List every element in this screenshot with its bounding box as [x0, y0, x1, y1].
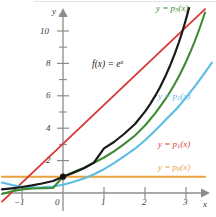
curve-label-p0-tail: (x) — [180, 162, 190, 172]
curve-label-p2: y = p2(x) — [158, 91, 190, 101]
y-axis-label: y — [52, 6, 56, 16]
curve-label-p0: y = p0(x) — [158, 162, 190, 172]
figure-canvas: −1 0 1 2 3 2 4 6 8 10 x y y = p3(x) y = … — [0, 0, 216, 217]
point-0-1 — [60, 174, 66, 180]
curve-label-p3-tail: (x) — [178, 3, 188, 13]
y-tick-label-8: 8 — [46, 58, 51, 68]
curve-label-p3: y = p3(x) — [156, 3, 188, 13]
x-tick-label-3: 3 — [183, 197, 188, 207]
curve-label-p1-lead: y = p — [158, 139, 177, 149]
curve-label-p3-lead: y = p — [156, 3, 175, 13]
curve-label-p1: y = p1(x) — [158, 139, 190, 149]
curve-label-p2-lead: y = p — [158, 91, 177, 101]
y-tick-label-10: 10 — [40, 26, 49, 36]
plot-svg — [0, 0, 216, 217]
y-axis-arrowhead — [59, 8, 68, 17]
x-tick-label-2: 2 — [142, 197, 147, 207]
x-axis-arrowhead — [201, 189, 210, 198]
curve-label-p0-lead: y = p — [158, 162, 177, 172]
y-tick-label-2: 2 — [46, 155, 51, 165]
y-tick-label-4: 4 — [46, 123, 51, 133]
curve-p1 — [2, 9, 205, 202]
x-tick-label-0: 0 — [55, 197, 60, 207]
curve-label-p2-tail: (x) — [180, 91, 190, 101]
curve-label-fx-exponent: x — [121, 58, 124, 65]
x-tick-label-1: 1 — [101, 197, 106, 207]
y-tick-label-6: 6 — [46, 90, 51, 100]
x-tick-label-neg1: −1 — [14, 197, 25, 207]
curve-label-fx: f(x) = ex — [92, 58, 123, 69]
x-axis-label: x — [203, 199, 207, 209]
curve-label-fx-main: f(x) = e — [92, 59, 121, 69]
curve-label-p1-tail: (x) — [180, 139, 190, 149]
